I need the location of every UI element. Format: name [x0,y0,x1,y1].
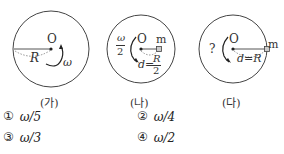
figure-caption-na: (나) [130,94,149,110]
option-1[interactable]: ①ω/5 [3,109,41,124]
option-value: ω/2 [154,131,175,145]
option-3[interactable]: ③ω/3 [3,130,41,145]
unknown-angular-label: ? [209,42,215,56]
angular-velocity-label: ω [63,56,72,69]
option-number: ② [137,110,148,123]
mass-block-icon [157,47,162,52]
option-number: ① [3,110,14,123]
angular-denominator: 2 [117,46,123,57]
option-2[interactable]: ②ω/4 [137,109,175,124]
option-value: ω/4 [154,110,175,124]
center-label: O [229,32,239,46]
mass-label: m [268,38,278,51]
option-number: ③ [3,131,14,144]
option-value: ω/5 [20,110,41,124]
center-label: O [137,32,147,46]
option-value: ω/3 [20,131,41,145]
arrowhead-icon [59,44,63,49]
center-dot [139,47,142,50]
center-dot [49,47,52,50]
figure-caption-ga: (가) [40,94,59,110]
figure-ga [13,11,89,87]
angular-numerator: ω [117,32,125,43]
distance-numerator: R [153,53,161,64]
figure-caption-da: (다) [222,94,241,110]
option-number: ④ [137,131,148,144]
mass-label: m [156,33,166,46]
distance-label: d=R [237,52,262,65]
option-4[interactable]: ④ω/2 [137,130,175,145]
center-dot [231,47,234,50]
radius-label: R [30,51,39,65]
center-label: O [47,32,57,46]
distance-denominator: 2 [153,65,159,76]
